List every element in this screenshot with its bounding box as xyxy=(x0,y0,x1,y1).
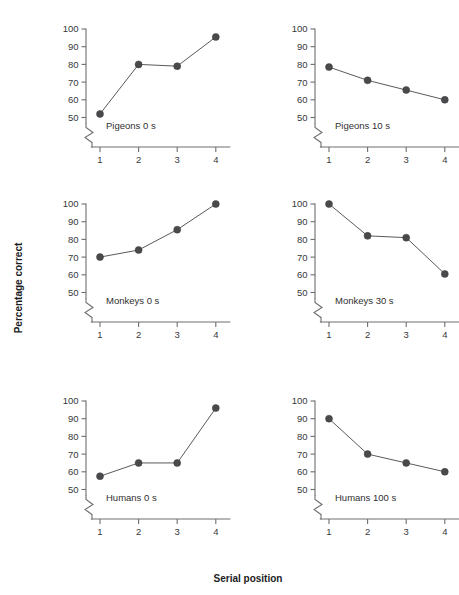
y-tick-label: 60 xyxy=(297,269,308,280)
data-line xyxy=(100,408,216,476)
x-tick-label: 3 xyxy=(404,329,409,340)
data-point-marker xyxy=(364,232,371,239)
panels-group: 50607080901001234Pigeons 0 s506070809010… xyxy=(63,23,459,537)
y-tick-label: 80 xyxy=(68,234,79,245)
data-line xyxy=(329,204,445,274)
data-point-marker xyxy=(97,473,104,480)
panel-label: Monkeys 0 s xyxy=(106,295,160,306)
x-tick-label: 1 xyxy=(97,526,102,537)
y-tick-label: 60 xyxy=(68,466,79,477)
x-tick-label: 1 xyxy=(97,329,102,340)
data-line xyxy=(329,67,445,100)
data-point-marker xyxy=(364,77,371,84)
y-tick-label: 90 xyxy=(68,413,79,424)
panel-label: Pigeons 10 s xyxy=(335,120,390,131)
y-tick-label: 50 xyxy=(68,287,79,298)
data-point-marker xyxy=(135,459,142,466)
x-tick-label: 2 xyxy=(136,526,141,537)
y-tick-label: 90 xyxy=(297,413,308,424)
data-point-marker xyxy=(174,63,181,70)
x-axis-title: Serial position xyxy=(214,573,283,584)
data-point-marker xyxy=(212,33,219,40)
x-tick-label: 3 xyxy=(404,154,409,165)
data-point-marker xyxy=(212,201,219,208)
x-tick-label: 1 xyxy=(326,329,331,340)
x-tick-label: 3 xyxy=(175,526,180,537)
y-tick-label: 60 xyxy=(297,466,308,477)
data-point-marker xyxy=(97,110,104,117)
y-tick-label: 80 xyxy=(68,431,79,442)
x-tick-label: 3 xyxy=(175,329,180,340)
data-line xyxy=(329,419,445,472)
y-axis-break-icon xyxy=(314,496,322,515)
data-point-marker xyxy=(403,87,410,94)
data-line xyxy=(100,204,216,257)
y-tick-label: 60 xyxy=(68,94,79,105)
data-point-marker xyxy=(326,64,333,71)
y-tick-label: 70 xyxy=(68,77,79,88)
y-tick-label: 90 xyxy=(297,216,308,227)
x-tick-label: 2 xyxy=(365,526,370,537)
data-point-marker xyxy=(441,468,448,475)
y-axis-break-icon xyxy=(314,124,322,143)
y-axis-break-icon xyxy=(85,299,93,318)
y-tick-label: 90 xyxy=(68,216,79,227)
data-point-marker xyxy=(441,270,448,277)
data-point-marker xyxy=(174,459,181,466)
y-tick-label: 60 xyxy=(68,269,79,280)
y-axis-title: Percentage correct xyxy=(13,242,24,333)
x-tick-label: 1 xyxy=(326,154,331,165)
y-tick-label: 50 xyxy=(68,484,79,495)
x-tick-label: 4 xyxy=(213,329,218,340)
x-tick-label: 2 xyxy=(136,154,141,165)
y-tick-label: 50 xyxy=(297,112,308,123)
x-tick-label: 2 xyxy=(365,329,370,340)
data-point-marker xyxy=(364,451,371,458)
y-tick-label: 80 xyxy=(297,234,308,245)
data-line xyxy=(100,37,216,114)
data-point-marker xyxy=(135,61,142,68)
y-tick-label: 70 xyxy=(297,77,308,88)
y-tick-label: 100 xyxy=(292,395,308,406)
panel-label: Pigeons 0 s xyxy=(106,120,156,131)
chart-panel: 50607080901001234Humans 0 s xyxy=(63,395,230,537)
y-tick-label: 80 xyxy=(297,431,308,442)
y-tick-label: 70 xyxy=(297,449,308,460)
y-tick-label: 50 xyxy=(68,112,79,123)
y-tick-label: 90 xyxy=(297,41,308,52)
figure-canvas: 50607080901001234Pigeons 0 s506070809010… xyxy=(0,0,459,595)
data-point-marker xyxy=(441,96,448,103)
y-tick-label: 100 xyxy=(63,198,79,209)
y-tick-label: 100 xyxy=(63,23,79,34)
y-axis-break-icon xyxy=(314,299,322,318)
x-tick-label: 2 xyxy=(136,329,141,340)
y-tick-label: 70 xyxy=(297,252,308,263)
x-tick-label: 4 xyxy=(442,526,447,537)
chart-svg: 50607080901001234Pigeons 0 s506070809010… xyxy=(0,0,459,595)
chart-panel: 50607080901001234Pigeons 0 s xyxy=(63,23,230,165)
y-tick-label: 50 xyxy=(297,484,308,495)
y-tick-label: 90 xyxy=(68,41,79,52)
panel-label: Humans 0 s xyxy=(106,492,157,503)
y-tick-label: 100 xyxy=(63,395,79,406)
panel-label: Humans 100 s xyxy=(335,492,397,503)
y-tick-label: 80 xyxy=(68,59,79,70)
data-point-marker xyxy=(174,226,181,233)
y-tick-label: 100 xyxy=(292,23,308,34)
x-tick-label: 2 xyxy=(365,154,370,165)
data-point-marker xyxy=(326,415,333,422)
y-tick-label: 100 xyxy=(292,198,308,209)
panel-label: Monkeys 30 s xyxy=(335,295,394,306)
y-tick-label: 70 xyxy=(68,252,79,263)
y-tick-label: 60 xyxy=(297,94,308,105)
x-tick-label: 3 xyxy=(175,154,180,165)
data-point-marker xyxy=(97,254,104,261)
data-point-marker xyxy=(212,405,219,412)
x-tick-label: 1 xyxy=(326,526,331,537)
x-tick-label: 3 xyxy=(404,526,409,537)
chart-panel: 50607080901001234Pigeons 10 s xyxy=(292,23,459,165)
x-tick-label: 4 xyxy=(213,154,218,165)
data-point-marker xyxy=(403,459,410,466)
x-tick-label: 4 xyxy=(213,526,218,537)
y-tick-label: 50 xyxy=(297,287,308,298)
